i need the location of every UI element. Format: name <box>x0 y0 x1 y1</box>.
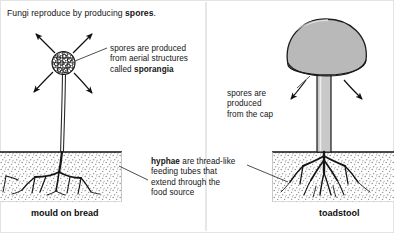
title-prefix: Fungi reproduce by producing <box>7 8 125 18</box>
leader-line-sporangia <box>75 48 107 61</box>
sporangia-line-3-prefix: called <box>110 65 134 74</box>
fungi-reproduction-diagram: Fungi reproduce by producing spores. spo… <box>0 0 394 233</box>
hyphae-line-2: feeding tubes that <box>151 167 217 176</box>
label-sporangia: spores are producedfrom aerial structure… <box>110 44 188 75</box>
leader-line-hyphae-left <box>119 166 148 180</box>
caption-toadstool: toadstool <box>319 208 360 218</box>
sporangia-line-3-emphasis: sporangia <box>134 65 174 74</box>
panel-mould-on-bread <box>0 32 122 202</box>
sporangiophore-stalk <box>61 72 66 152</box>
sporangia-line-2: from aerial structures <box>110 54 188 63</box>
title-emphasis: spores <box>125 8 153 18</box>
caption-mould-on-bread: mould on bread <box>31 208 99 218</box>
cap-line-2: produced <box>227 99 262 108</box>
page-title: Fungi reproduce by producing spores. <box>7 8 156 18</box>
soil-block-right <box>272 152 394 202</box>
hyphae-line-3: extend through the <box>151 178 220 187</box>
sporangia-line-1: spores are produced <box>110 44 186 53</box>
label-cap-spores: spores areproducedfrom the cap <box>227 89 273 120</box>
hyphae-line-1-emphasis: hyphae <box>151 157 180 166</box>
sporangium-icon <box>52 52 75 75</box>
cap-line-3: from the cap <box>227 110 273 119</box>
label-hyphae: hyphae are thread-likefeeding tubes that… <box>151 157 235 199</box>
toadstool-cap <box>287 19 366 76</box>
hyphae-line-4: food source <box>151 188 194 197</box>
panel-toadstool <box>272 19 394 202</box>
title-suffix: . <box>154 8 156 18</box>
hyphae-line-1-suffix: are thread-like <box>180 157 235 166</box>
leader-line-cap <box>297 76 310 88</box>
cap-line-1: spores are <box>227 89 266 98</box>
